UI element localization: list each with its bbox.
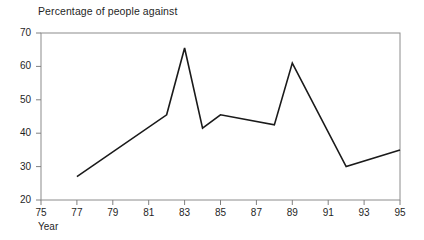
y-tick-label: 40 [9,127,31,139]
plot-area [0,0,424,240]
x-tick-label: 85 [209,207,233,219]
x-tick-label: 79 [101,207,125,219]
x-tick-label: 89 [280,207,304,219]
plot-border [41,33,400,200]
chart-figure: Percentage of people against 20304050607… [0,0,424,240]
x-tick-label: 81 [137,207,161,219]
x-tick-label: 75 [29,207,53,219]
y-tick-label: 20 [9,194,31,206]
y-axis-ticks [36,33,41,200]
y-tick-label: 50 [9,94,31,106]
x-axis-ticks [41,200,400,205]
x-tick-label: 87 [244,207,268,219]
plot-frame [41,33,400,200]
x-tick-label: 91 [316,207,340,219]
x-tick-label: 93 [352,207,376,219]
series-line [77,48,400,177]
y-tick-label: 70 [9,27,31,39]
x-tick-label: 77 [65,207,89,219]
x-tick-label: 83 [173,207,197,219]
x-axis-label: Year [38,220,58,233]
y-tick-label: 30 [9,161,31,173]
y-tick-label: 60 [9,60,31,72]
data-series-group [77,48,400,177]
x-tick-label: 95 [388,207,412,219]
